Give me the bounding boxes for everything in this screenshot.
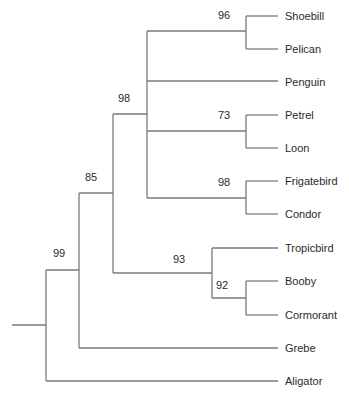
leaf-label-grebe: Grebe [285,342,316,354]
support-value-92: 92 [216,279,228,291]
leaf-label-penguin: Penguin [285,76,325,88]
phylogenetic-tree: Shoebill Pelican Penguin Petrel Loon Fri… [0,0,349,396]
leaf-label-booby: Booby [285,275,317,287]
leaf-label-aligator: Aligator [285,375,323,387]
leaf-label-loon: Loon [285,142,309,154]
support-value-98-upper: 98 [118,92,130,104]
leaf-label-frigatebird: Frigatebird [285,175,338,187]
support-value-99: 99 [53,247,65,259]
support-value-93: 93 [173,253,185,265]
support-value-73: 73 [218,109,230,121]
leaf-label-tropicbird: Tropicbird [285,242,334,254]
support-value-98-lower: 98 [218,176,230,188]
leaf-label-condor: Condor [285,208,321,220]
leaf-label-shoebill: Shoebill [285,10,324,22]
leaf-label-cormorant: Cormorant [285,309,337,321]
support-value-85: 85 [85,171,97,183]
leaf-label-petrel: Petrel [285,109,314,121]
leaf-label-pelican: Pelican [285,43,321,55]
support-value-96: 96 [218,9,230,21]
